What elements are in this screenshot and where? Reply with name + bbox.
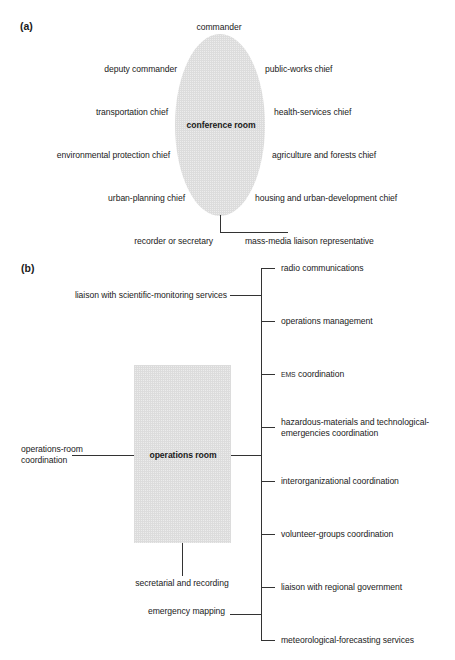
role-agriculture-forests-chief: agriculture and forests chief: [272, 150, 376, 160]
branch-liaison-regional-government: liaison with regional government: [281, 582, 402, 592]
branch-volunteer-groups-coordination: volunteer-groups coordination: [281, 529, 393, 539]
role-housing-urban-development-chief: housing and urban-development chief: [255, 193, 397, 203]
branch-hazmat-line1: hazardous-materials and technological-: [281, 417, 429, 427]
operations-room-coordination-line2: coordination: [21, 455, 67, 465]
branch-interorganizational-coordination: interorganizational coordination: [281, 476, 399, 486]
role-environmental-protection-chief: environmental protection chief: [57, 150, 170, 160]
branch-radio-communications: radio communications: [281, 263, 364, 273]
role-urban-planning-chief: urban-planning chief: [108, 193, 185, 203]
branch-meteorological-forecasting: meteorological-forecasting services: [281, 635, 414, 645]
connector-line: [231, 455, 261, 456]
branch-tick: [261, 587, 275, 588]
liaison-scientific-monitoring: liaison with scientific-monitoring servi…: [75, 290, 227, 300]
panel-a-label: (a): [20, 20, 33, 32]
operations-room-label: operations room: [149, 450, 216, 460]
ems-abbrev: EMS: [281, 371, 296, 378]
branch-hazmat-line2: emergencies coordination: [281, 428, 378, 438]
branch-ems-coordination: EMS coordination: [281, 369, 344, 380]
connector-line: [72, 455, 134, 456]
role-recorder-secretary: recorder or secretary: [134, 236, 213, 246]
branch-tick: [261, 640, 275, 641]
role-mass-media-liaison: mass-media liaison representative: [245, 236, 374, 246]
connector-line: [220, 215, 221, 233]
branch-tick: [261, 427, 275, 428]
conference-room-label: conference room: [187, 120, 256, 130]
branch-operations-management: operations management: [281, 316, 373, 326]
branch-tick: [261, 534, 275, 535]
operations-room-coordination-line1: operations-room: [21, 444, 83, 454]
role-commander: commander: [197, 22, 242, 32]
branch-tick: [261, 374, 275, 375]
panel-b-label: (b): [21, 262, 34, 274]
connector-line: [220, 232, 288, 233]
trunk-line: [261, 268, 262, 641]
branch-tick: [261, 321, 275, 322]
ems-coordination-text: coordination: [296, 369, 345, 379]
connector-line: [230, 295, 261, 296]
role-deputy-commander: deputy commander: [104, 64, 177, 74]
role-health-services-chief: health-services chief: [274, 107, 351, 117]
role-public-works-chief: public-works chief: [265, 64, 332, 74]
secretarial-recording: secretarial and recording: [135, 578, 228, 588]
connector-line: [230, 614, 261, 615]
branch-tick: [261, 481, 275, 482]
connector-line: [182, 543, 183, 576]
role-transportation-chief: transportation chief: [96, 107, 168, 117]
emergency-mapping: emergency mapping: [148, 606, 225, 616]
branch-tick: [261, 268, 275, 269]
